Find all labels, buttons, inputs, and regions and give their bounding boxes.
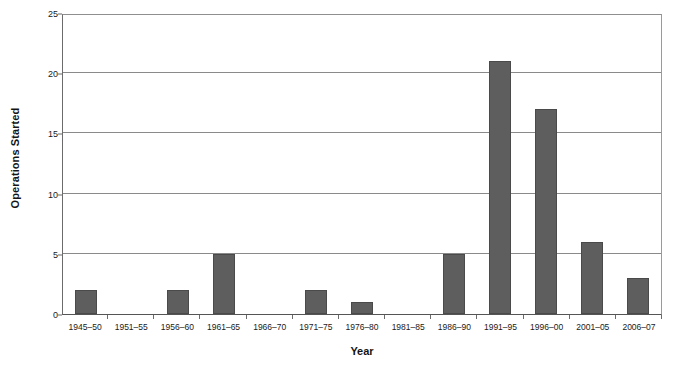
x-axis-tick-cell [108, 315, 154, 320]
bar-slot [109, 15, 155, 314]
bar-slot [385, 15, 431, 314]
bar-chart-figure: Operations Started 0510152025 1945–50195… [0, 0, 683, 381]
bar-slot [247, 15, 293, 314]
x-axis-title: Year [62, 345, 662, 357]
bar-slot [431, 15, 477, 314]
x-axis-tick-label: 1945–50 [62, 322, 108, 336]
x-axis-tick-cell [431, 315, 477, 320]
x-axis-tick-label: 1986–90 [431, 322, 477, 336]
x-axis-tick-label: 2006–07 [616, 322, 662, 336]
bar [443, 254, 465, 314]
y-axis-tick-mark [58, 194, 62, 195]
x-axis-tick-cell [385, 315, 431, 320]
x-axis-tick-label: 1971–75 [293, 322, 339, 336]
x-axis-tick-mark-group [62, 315, 662, 320]
bar-slot [523, 15, 569, 314]
x-axis-tick-cell [477, 315, 523, 320]
y-axis-tick-mark [58, 315, 62, 316]
x-axis-tick-cell [524, 315, 570, 320]
y-axis-tick-mark [58, 74, 62, 75]
y-axis-tick-label: 10 [32, 190, 58, 199]
y-axis-title-text: Operations Started [9, 107, 21, 208]
y-axis-tick-mark [58, 134, 62, 135]
y-axis-tick-label: 0 [32, 311, 58, 320]
bar-slot [477, 15, 523, 314]
bar [351, 302, 373, 314]
bar [305, 290, 327, 314]
y-axis-tick-label: 5 [32, 250, 58, 259]
bar-series-group [63, 15, 661, 314]
y-axis-tick-label-group: 0510152025 [30, 0, 58, 381]
bar [489, 61, 511, 314]
bar-slot [615, 15, 661, 314]
bar-slot [201, 15, 247, 314]
bar [167, 290, 189, 314]
x-axis-tick-label: 1996–00 [524, 322, 570, 336]
y-axis-tick-label: 25 [32, 10, 58, 19]
x-axis-tick-label: 1951–55 [108, 322, 154, 336]
y-axis-tick-label: 15 [32, 130, 58, 139]
y-axis-title: Operations Started [0, 0, 30, 315]
x-axis-tick-cell [247, 315, 293, 320]
bar [213, 254, 235, 314]
plot-area [62, 14, 662, 315]
x-axis-tick-label: 1981–85 [385, 322, 431, 336]
x-axis-tick-cell [570, 315, 616, 320]
y-axis-tick-mark [58, 254, 62, 255]
bar-slot [155, 15, 201, 314]
y-axis-tick-label: 20 [32, 70, 58, 79]
x-axis-tick-label: 1956–60 [154, 322, 200, 336]
x-axis-tick-cell [154, 315, 200, 320]
bar-slot [293, 15, 339, 314]
y-axis-tick-mark [58, 14, 62, 15]
x-axis-tick-label-group: 1945–501951–551956–601961–651966–701971–… [62, 322, 662, 336]
x-axis-tick-mark [661, 315, 662, 319]
x-axis-tick-label: 1991–95 [477, 322, 523, 336]
x-axis-tick-cell [339, 315, 385, 320]
bar [581, 242, 603, 314]
x-axis-tick-label: 1966–70 [247, 322, 293, 336]
bar [535, 109, 557, 314]
x-axis-tick-label: 1976–80 [339, 322, 385, 336]
bar-slot [569, 15, 615, 314]
x-axis-tick-cell [62, 315, 108, 320]
x-axis-tick-label: 2001–05 [570, 322, 616, 336]
bar [75, 290, 97, 314]
scan-artifact [649, 362, 661, 369]
x-axis-tick-label: 1961–65 [200, 322, 246, 336]
bar [627, 278, 649, 314]
bar-slot [339, 15, 385, 314]
bar-slot [63, 15, 109, 314]
x-axis-tick-cell [616, 315, 662, 320]
x-axis-tick-cell [200, 315, 246, 320]
x-axis-tick-cell [293, 315, 339, 320]
